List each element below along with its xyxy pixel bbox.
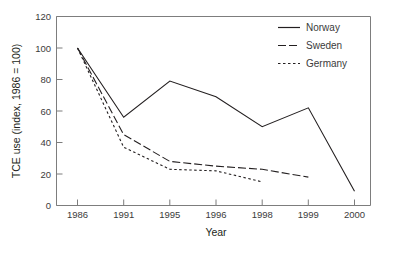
line-chart: 0 20 40 60 80 100 120 1986 1991 1995 199… xyxy=(0,0,393,254)
chart-figure: 0 20 40 60 80 100 120 1986 1991 1995 199… xyxy=(0,0,393,254)
y-tick-label-80: 80 xyxy=(40,74,51,85)
x-tick-label-1996: 1996 xyxy=(205,209,226,220)
y-tick-label-20: 20 xyxy=(40,169,51,180)
y-tick-label-60: 60 xyxy=(40,106,51,117)
chart-background xyxy=(0,0,393,254)
y-tick-label-120: 120 xyxy=(35,11,51,22)
legend-label-sweden: Sweden xyxy=(306,40,342,51)
x-tick-label-1986: 1986 xyxy=(67,209,88,220)
x-tick-label-1999: 1999 xyxy=(298,209,319,220)
y-axis-title: TCE use (index, 1986 = 100) xyxy=(10,44,22,179)
x-tick-label-2000: 2000 xyxy=(344,209,365,220)
legend-label-norway: Norway xyxy=(306,22,340,33)
x-tick-label-1995: 1995 xyxy=(159,209,180,220)
legend-label-germany: Germany xyxy=(306,58,347,69)
y-tick-label-0: 0 xyxy=(46,200,51,211)
y-tick-label-100: 100 xyxy=(35,43,51,54)
x-axis-title: Year xyxy=(205,226,227,238)
y-tick-label-40: 40 xyxy=(40,137,51,148)
x-tick-label-1998: 1998 xyxy=(252,209,273,220)
x-tick-label-1991: 1991 xyxy=(113,209,134,220)
